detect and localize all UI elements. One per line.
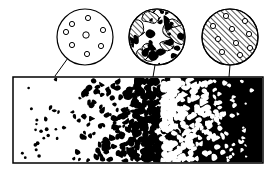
strip-isolated-particle: [27, 87, 30, 90]
strip-isolated-particle: [42, 137, 45, 140]
inset-particle: [84, 51, 89, 56]
inset-particle: [83, 32, 89, 38]
inset-particle: [247, 45, 252, 50]
strip-isolated-particle: [35, 148, 38, 151]
inset-particle: [237, 52, 242, 57]
inset-phase-inverted[interactable]: [202, 9, 258, 65]
inset-particle: [246, 31, 251, 36]
strip-isolated-particle: [45, 127, 49, 131]
inset-particle: [69, 21, 74, 26]
inset-particle: [233, 40, 238, 45]
inset-particle: [223, 13, 228, 18]
inset-particle: [242, 18, 247, 23]
strip-isolated-particle: [36, 141, 40, 145]
strip-black-domain: [87, 100, 91, 106]
inset-particle: [100, 27, 105, 32]
strip-isolated-particle: [24, 156, 27, 159]
morphology-gradient-strip[interactable]: [13, 76, 265, 165]
inset-particle: [215, 36, 220, 41]
strip-isolated-particle: [21, 152, 24, 155]
strip-isolated-particle: [46, 134, 49, 137]
diagram-canvas: [0, 0, 270, 174]
inset-particle: [85, 15, 90, 20]
inset-particle: [98, 43, 103, 48]
strip-isolated-particle: [34, 129, 37, 132]
strip-isolated-particle: [35, 123, 37, 125]
inset-particle: [63, 29, 68, 34]
strip-white-domain: [222, 135, 225, 140]
inset-particle: [210, 23, 215, 28]
strip-isolated-particle: [37, 154, 41, 158]
inset-dilute-dispersion[interactable]: [57, 9, 113, 65]
inset-particle: [219, 49, 224, 54]
strip-isolated-particle: [55, 128, 58, 131]
strip-isolated-particle: [39, 129, 43, 133]
figure-root: Phase morphology gradient with three mag…: [0, 0, 270, 174]
strip-isolated-particle: [30, 107, 33, 110]
strip-isolated-particle: [35, 118, 38, 121]
inset-particle: [229, 26, 234, 31]
inset-particle: [69, 42, 74, 47]
